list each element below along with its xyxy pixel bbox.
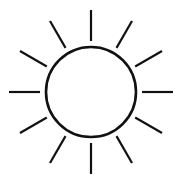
sun-ray xyxy=(20,118,47,134)
sun-rays xyxy=(9,10,173,174)
sun-ray xyxy=(50,136,66,163)
sun-ray xyxy=(117,21,133,48)
sun-ray xyxy=(135,51,162,67)
sun-icon xyxy=(0,0,175,175)
sun-ray xyxy=(117,136,133,163)
sun-ray xyxy=(20,51,47,67)
sun-ray xyxy=(135,118,162,134)
sun-disc xyxy=(46,47,136,137)
sun-ray xyxy=(50,21,66,48)
